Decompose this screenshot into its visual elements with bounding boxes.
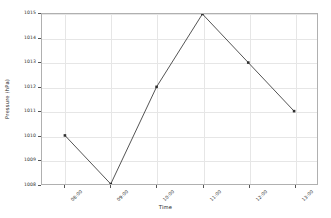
y-tick-label: 1008 <box>3 182 36 187</box>
y-tick-mark <box>38 87 41 88</box>
x-tick-mark <box>295 185 296 188</box>
y-tick-mark <box>38 111 41 112</box>
y-tick-mark <box>38 185 41 186</box>
y-tick-mark <box>38 136 41 137</box>
y-tick-label: 1015 <box>3 10 36 15</box>
x-tick-label: 11:00 <box>209 189 222 202</box>
x-tick-mark <box>203 185 204 188</box>
series-polyline <box>65 14 294 184</box>
x-tick-label: 09:00 <box>116 189 129 202</box>
x-tick-label: 12:00 <box>255 189 268 202</box>
x-tick-mark <box>156 185 157 188</box>
data-point-marker <box>155 86 158 89</box>
y-tick-mark <box>38 13 41 14</box>
y-tick-label: 1009 <box>3 157 36 162</box>
y-tick-mark <box>38 38 41 39</box>
x-tick-label: 13:00 <box>301 189 314 202</box>
data-point-marker <box>247 61 250 64</box>
x-tick-mark <box>64 185 65 188</box>
data-point-marker <box>201 13 204 15</box>
y-tick-mark <box>38 62 41 63</box>
plot-area <box>41 13 318 185</box>
chart-figure: 10081009101010111012101310141015 08:0009… <box>0 0 331 218</box>
x-tick-label: 10:00 <box>162 189 175 202</box>
y-tick-mark <box>38 160 41 161</box>
y-tick-label: 1014 <box>3 35 36 40</box>
y-tick-label: 1013 <box>3 59 36 64</box>
x-tick-mark <box>249 185 250 188</box>
series-markers <box>64 13 296 185</box>
data-point-marker <box>64 134 67 137</box>
x-axis-label: Time <box>0 204 331 210</box>
y-tick-label: 1010 <box>3 133 36 138</box>
x-tick-label: 08:00 <box>70 189 83 202</box>
data-point-marker <box>293 110 296 113</box>
line-series <box>42 14 317 184</box>
x-tick-mark <box>110 185 111 188</box>
y-axis-label: Pressure (hPa) <box>4 79 10 119</box>
